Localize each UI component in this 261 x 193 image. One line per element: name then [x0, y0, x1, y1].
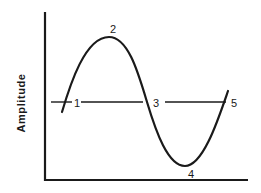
- point-label-5: 5: [231, 97, 237, 109]
- waveform-diagram: 1 2 3 4 5 Amplitude: [0, 0, 261, 193]
- y-axis-label: Amplitude: [15, 73, 27, 132]
- point-label-1: 1: [74, 97, 80, 109]
- point-label-4: 4: [188, 168, 194, 180]
- point-label-3: 3: [153, 97, 159, 109]
- point-label-2: 2: [110, 23, 116, 35]
